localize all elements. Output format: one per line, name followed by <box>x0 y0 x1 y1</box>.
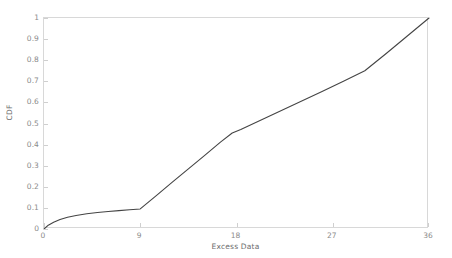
y-axis-title: CDF <box>5 91 14 135</box>
y-tick-mark <box>44 39 48 40</box>
y-tick-mark <box>44 60 48 61</box>
x-tick-label: 18 <box>216 231 256 240</box>
x-tick-label: 36 <box>408 231 448 240</box>
y-tick-label: 0.8 <box>3 55 39 64</box>
y-tick-mark <box>44 18 48 19</box>
x-tick-mark <box>237 223 238 227</box>
x-tick-mark <box>428 223 429 227</box>
y-tick-mark <box>44 81 48 82</box>
cdf-curve-line <box>44 18 429 229</box>
x-axis-title: Excess Data <box>43 242 428 251</box>
x-tick-mark <box>44 223 45 227</box>
x-tick-mark <box>333 223 334 227</box>
x-tick-mark <box>140 223 141 227</box>
y-tick-label: 0.9 <box>3 34 39 43</box>
y-tick-mark <box>44 229 48 230</box>
plot-area <box>43 17 428 228</box>
x-tick-label: 0 <box>23 231 63 240</box>
y-tick-mark <box>44 145 48 146</box>
cdf-curve <box>44 18 429 229</box>
chart-figure: 00.10.20.30.40.50.60.70.80.91 CDF 091827… <box>0 0 452 258</box>
y-tick-mark <box>44 166 48 167</box>
y-tick-label: 0.1 <box>3 202 39 211</box>
y-tick-mark <box>44 208 48 209</box>
y-tick-mark <box>44 102 48 103</box>
y-tick-mark <box>44 187 48 188</box>
y-tick-label: 0.7 <box>3 76 39 85</box>
y-tick-label: 0.2 <box>3 181 39 190</box>
y-tick-label: 0.4 <box>3 139 39 148</box>
y-tick-label: 0.3 <box>3 160 39 169</box>
y-tick-label: 1 <box>3 13 39 22</box>
y-tick-mark <box>44 124 48 125</box>
x-tick-label: 9 <box>119 231 159 240</box>
x-tick-label: 27 <box>312 231 352 240</box>
